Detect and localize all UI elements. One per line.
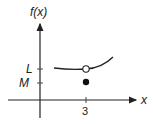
limit-graph: f(x) x L M 3 — [0, 0, 153, 124]
y-axis-label: f(x) — [30, 5, 47, 19]
x-axis-label: x — [140, 93, 148, 107]
open-point — [83, 66, 89, 72]
tick-label-L: L — [26, 62, 33, 76]
tick-label-3: 3 — [82, 105, 88, 117]
filled-point — [83, 79, 89, 85]
tick-label-M: M — [19, 76, 29, 90]
